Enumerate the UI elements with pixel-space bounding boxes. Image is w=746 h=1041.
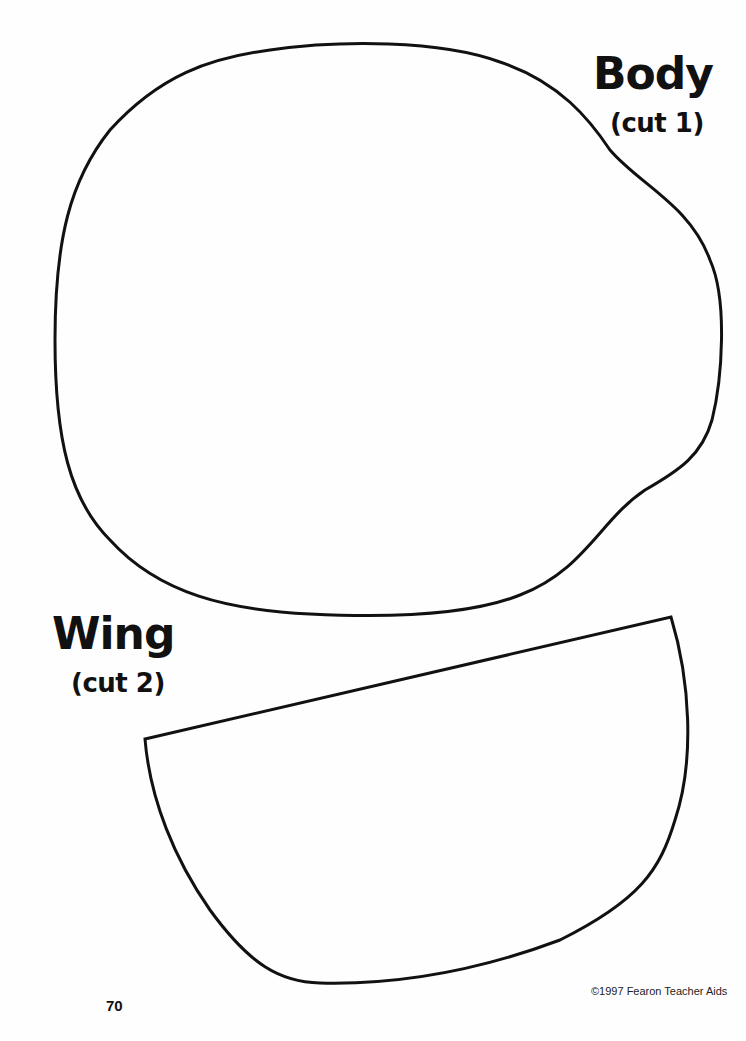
wing-cutout-outline [145, 617, 688, 983]
wing-piece-instruction: (cut 2) [71, 670, 165, 696]
wing-piece-title: Wing [52, 612, 174, 656]
copyright-notice: ©1997 Fearon Teacher Aids [591, 985, 727, 997]
page-number: 70 [106, 997, 123, 1014]
body-piece-instruction: (cut 1) [610, 110, 704, 136]
cutout-patterns [0, 0, 746, 1041]
worksheet-page: Body (cut 1) Wing (cut 2) 70 ©1997 Fearo… [0, 0, 746, 1041]
body-piece-title: Body [593, 52, 713, 96]
